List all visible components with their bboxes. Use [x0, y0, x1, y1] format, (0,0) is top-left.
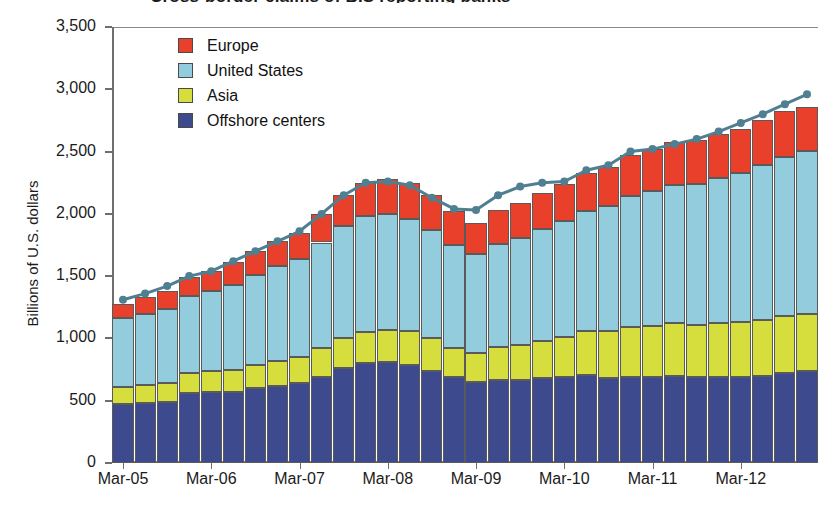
y-axis-tick — [105, 26, 112, 28]
legend-item[interactable]: Europe — [178, 33, 325, 58]
total-line-marker — [737, 119, 745, 127]
total-line-marker — [428, 194, 436, 202]
total-line-marker — [119, 296, 127, 304]
y-axis-tick-label: 3,500 — [0, 17, 96, 35]
total-line-marker — [450, 205, 458, 213]
total-line-marker — [318, 210, 326, 218]
x-axis-tick — [653, 463, 654, 469]
total-line-marker — [649, 145, 657, 153]
x-axis-tick — [476, 463, 477, 469]
total-line-marker — [229, 257, 237, 265]
total-line-marker — [494, 191, 502, 199]
legend-item[interactable]: Offshore centers — [178, 108, 325, 133]
legend-swatch-icon — [178, 63, 193, 78]
x-axis-tick-label: Mar-09 — [451, 470, 502, 488]
total-line-marker — [715, 128, 723, 136]
y-axis-tick — [105, 213, 112, 215]
x-axis-tick — [211, 463, 212, 469]
total-line-marker — [781, 100, 789, 108]
total-line-marker — [384, 178, 392, 186]
total-line-marker — [472, 206, 480, 214]
legend-item[interactable]: United States — [178, 58, 325, 83]
total-line-marker — [296, 227, 304, 235]
chart-title: Cross-border claims of BIS reporting ban… — [150, 0, 511, 3]
y-axis-tick — [105, 88, 112, 90]
x-axis-tick-label: Mar-07 — [274, 470, 325, 488]
total-line-marker — [251, 247, 259, 255]
y-axis-tick-label: 0 — [0, 453, 96, 471]
y-axis-tick-label: 1,500 — [0, 266, 96, 284]
x-axis-tick — [564, 463, 565, 469]
x-axis-tick — [123, 463, 124, 469]
chart-legend: EuropeUnited StatesAsiaOffshore centers — [178, 33, 325, 133]
y-axis-tick-label: 2,000 — [0, 204, 96, 222]
total-line-marker — [582, 166, 590, 174]
y-axis-tick — [105, 462, 112, 464]
total-line-marker — [627, 148, 635, 156]
y-axis-tick-label: 3,000 — [0, 79, 96, 97]
total-line-marker — [671, 140, 679, 148]
total-line-marker — [516, 183, 524, 191]
y-axis-tick — [105, 275, 112, 277]
total-line-marker — [538, 179, 546, 187]
x-axis-tick-label: Mar-12 — [715, 470, 766, 488]
x-axis-tick — [741, 463, 742, 469]
legend-item[interactable]: Asia — [178, 83, 325, 108]
total-line-marker — [163, 282, 171, 290]
total-line-marker — [340, 191, 348, 199]
x-axis-tick-label: Mar-10 — [539, 470, 590, 488]
total-line-marker — [141, 290, 149, 298]
y-axis-tick — [105, 400, 112, 402]
chart-container: Cross-border claims of BIS reporting ban… — [0, 0, 818, 514]
legend-item-label: Europe — [207, 38, 259, 54]
y-axis-tick-label: 2,500 — [0, 142, 96, 160]
total-line-marker — [274, 237, 282, 245]
y-axis-tick — [105, 151, 112, 153]
legend-item-label: Asia — [207, 88, 238, 104]
x-axis-tick-label: Mar-06 — [186, 470, 237, 488]
x-axis-tick — [388, 463, 389, 469]
total-line-marker — [803, 90, 811, 98]
total-line-marker — [362, 179, 370, 187]
total-line-marker — [406, 181, 414, 189]
legend-item-label: United States — [207, 63, 303, 79]
x-axis-tick — [300, 463, 301, 469]
legend-swatch-icon — [178, 113, 193, 128]
x-axis-tick-label: Mar-11 — [628, 470, 678, 488]
x-axis-tick-label: Mar-05 — [98, 470, 149, 488]
total-line-marker — [185, 272, 193, 280]
total-line-marker — [560, 178, 568, 186]
y-axis-tick-label: 1,000 — [0, 328, 96, 346]
total-line-marker — [604, 161, 612, 169]
x-axis-tick-label: Mar-08 — [362, 470, 413, 488]
legend-item-label: Offshore centers — [207, 113, 325, 129]
legend-swatch-icon — [178, 38, 193, 53]
total-line-marker — [759, 110, 767, 118]
total-line-marker — [693, 135, 701, 143]
total-line-marker — [207, 267, 215, 275]
y-axis-tick — [105, 337, 112, 339]
legend-swatch-icon — [178, 88, 193, 103]
y-axis-tick-label: 500 — [0, 391, 96, 409]
